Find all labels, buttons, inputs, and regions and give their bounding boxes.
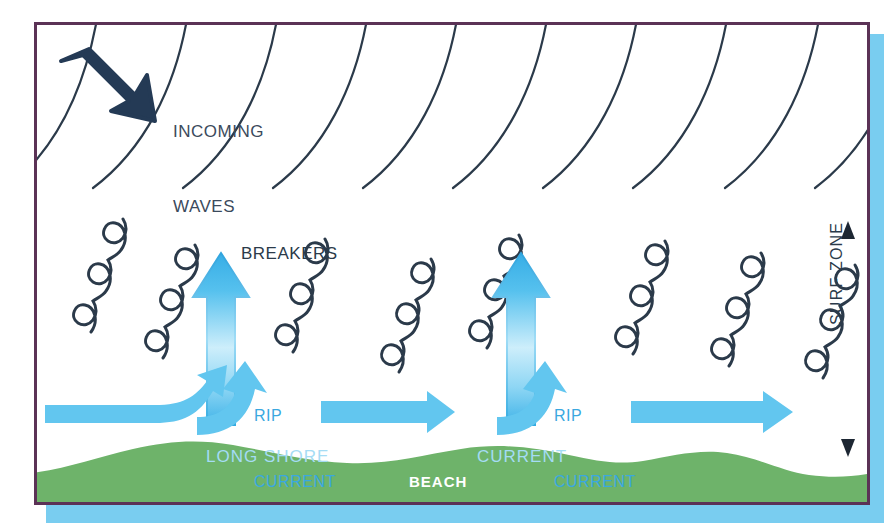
label-rip-current-2-line2: CURRENT	[554, 471, 636, 493]
label-rip-current-2-line1: RIP	[554, 405, 636, 427]
label-rip-current-1-line2: CURRENT	[254, 471, 336, 493]
label-rip-current-1-line1: RIP	[254, 405, 336, 427]
beach-landmass	[37, 442, 867, 502]
label-surf-zone: SURF ZONE	[828, 222, 846, 325]
incoming-wave-arcs	[37, 25, 867, 188]
label-incoming-waves-line2: WAVES	[173, 194, 264, 219]
label-incoming-waves: INCOMING WAVES	[173, 69, 264, 269]
label-incoming-waves-line1: INCOMING	[173, 119, 264, 144]
label-rip-current-2: RIP CURRENT	[554, 361, 636, 505]
label-long-shore: LONG SHORE	[206, 447, 329, 467]
label-current: CURRENT	[477, 447, 567, 467]
diagram-frame: INCOMING WAVES BREAKERS RIP CURRENT RIP …	[34, 22, 870, 505]
longshore-current-arrow-1	[45, 365, 227, 423]
longshore-current-arrow-3	[631, 391, 793, 433]
label-breakers: BREAKERS	[241, 244, 338, 264]
label-beach: BEACH	[409, 473, 467, 490]
diagram-canvas: INCOMING WAVES BREAKERS RIP CURRENT RIP …	[0, 0, 884, 523]
label-rip-current-1: RIP CURRENT	[254, 361, 336, 505]
longshore-current-arrow-2	[321, 391, 455, 433]
coastal-diagram-illustration	[37, 25, 867, 502]
surf-zone-marker-bottom-arrow	[841, 439, 855, 457]
incoming-waves-direction-arrow	[61, 49, 155, 121]
